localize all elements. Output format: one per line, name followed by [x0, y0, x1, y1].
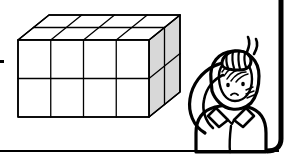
illustration-panel: Volume puzzle illustration Line-art draw… [0, 0, 295, 158]
person-shirt-placket [230, 126, 231, 152]
illustration-canvas [0, 0, 295, 158]
left-edge-mark [0, 60, 4, 63]
unit-cube-block [18, 15, 180, 117]
